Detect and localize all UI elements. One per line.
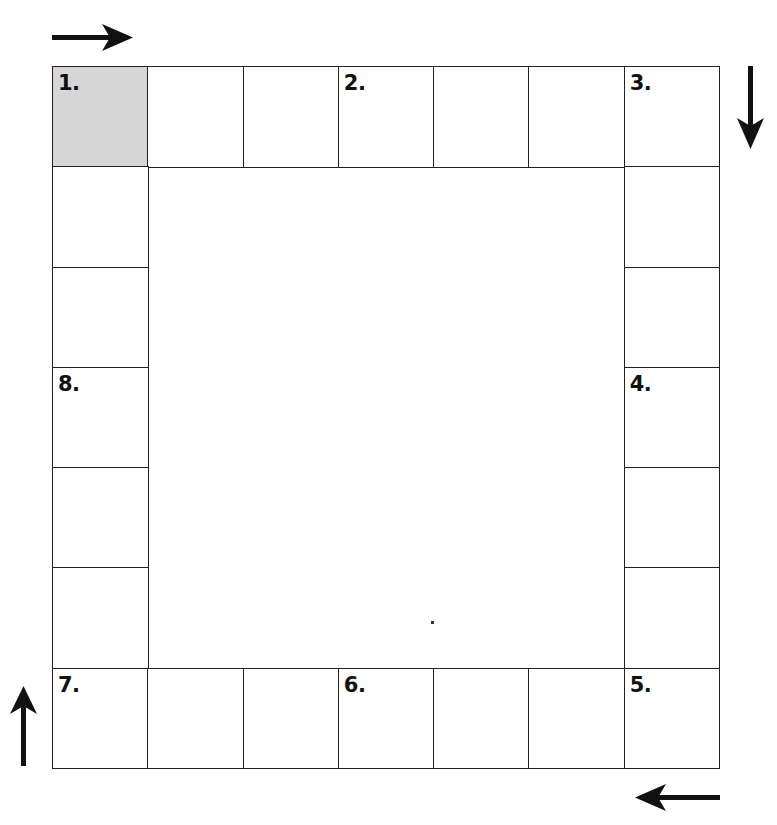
board-space bbox=[147, 66, 244, 168]
board-space bbox=[52, 567, 149, 669]
board-space bbox=[624, 267, 721, 369]
board-space bbox=[624, 166, 721, 268]
space-number-label: 8. bbox=[58, 372, 80, 396]
board-space bbox=[52, 467, 149, 569]
space-number-label: 2. bbox=[344, 71, 366, 95]
board-space bbox=[624, 467, 721, 569]
space-number-label: 5. bbox=[630, 673, 652, 697]
board-space: 8. bbox=[52, 367, 149, 469]
game-board: 1.2.3.8.4.7.6.5. bbox=[52, 66, 719, 768]
board-space bbox=[243, 66, 340, 168]
arrow-up-icon bbox=[8, 686, 40, 766]
space-number-label: 6. bbox=[344, 673, 366, 697]
space-number-label: 7. bbox=[58, 673, 80, 697]
arrow-left-icon bbox=[634, 782, 720, 814]
space-number-label: 1. bbox=[58, 71, 80, 95]
board-space: 2. bbox=[338, 66, 435, 168]
board-space: 4. bbox=[624, 367, 721, 469]
start-space: 1. bbox=[52, 66, 149, 168]
board-space: 5. bbox=[624, 668, 721, 770]
space-number-label: 4. bbox=[630, 372, 652, 396]
stray-dot bbox=[431, 621, 434, 624]
board-space: 6. bbox=[338, 668, 435, 770]
board-space bbox=[52, 166, 149, 268]
board-space bbox=[243, 668, 340, 770]
space-number-label: 3. bbox=[630, 71, 652, 95]
board-space: 7. bbox=[52, 668, 149, 770]
board-space bbox=[433, 66, 530, 168]
board-space bbox=[52, 267, 149, 369]
board-space bbox=[528, 66, 625, 168]
board-space bbox=[433, 668, 530, 770]
board-space: 3. bbox=[624, 66, 721, 168]
board-space bbox=[147, 668, 244, 770]
board-space bbox=[624, 567, 721, 669]
arrow-down-icon bbox=[735, 66, 767, 150]
board-space bbox=[528, 668, 625, 770]
arrow-right-icon bbox=[52, 22, 134, 54]
